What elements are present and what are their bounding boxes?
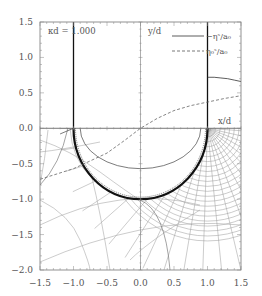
y-tick-label: −0.5	[11, 159, 33, 169]
x-tick-label: −0.5	[96, 278, 118, 288]
x-tick-label: 1.0	[200, 278, 215, 288]
x-tick-label: 0.5	[167, 278, 182, 288]
y-tick-label: 1.5	[19, 17, 34, 27]
x-tick-label: 0.0	[133, 278, 148, 288]
y-tick-label: 0.0	[19, 123, 34, 133]
y-tick-label: −2.0	[11, 265, 33, 275]
x-tick-label: −1.0	[63, 278, 85, 288]
chart: −1.5−1.0−0.50.00.51.01.51.51.00.50.0−0.5…	[0, 0, 262, 296]
y-tick-label: −1.5	[11, 230, 33, 240]
legend-dashed-label: η₀ˢ/a₀	[206, 47, 227, 56]
x-axis-label: x/d	[218, 116, 232, 126]
legend-solid-label: −ηˢ/a₀	[206, 32, 231, 41]
y-tick-label: 0.5	[19, 88, 34, 98]
x-tick-label: −1.5	[29, 278, 51, 288]
y-tick-label: −1.0	[11, 194, 33, 204]
annotation-kappa-d: κd = 1.000	[48, 26, 96, 36]
y-axis-label: y/d	[147, 26, 162, 36]
x-tick-label: 1.5	[234, 278, 249, 288]
y-tick-label: 1.0	[19, 52, 34, 62]
